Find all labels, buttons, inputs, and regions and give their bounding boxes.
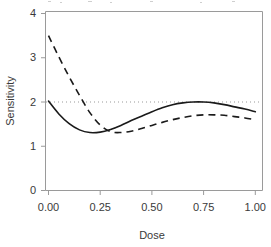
chart-canvas: 0 1 2 3 4 0.00 0.25 0.50 0.75 1.00 Dose … (0, 0, 271, 247)
y-axis-title: Sensitivity (4, 76, 16, 126)
x-tick-label-3: 0.75 (193, 201, 214, 213)
y-axis-tick-labels: 0 1 2 3 4 (30, 7, 36, 196)
y-tick-label-3: 3 (30, 51, 36, 63)
x-axis-ticks (49, 191, 256, 196)
y-tick-label-0: 0 (30, 184, 36, 196)
scan-artifacts (48, 1, 235, 3)
y-tick-label-1: 1 (30, 140, 36, 152)
x-tick-label-4: 1.00 (245, 201, 266, 213)
y-tick-label-4: 4 (30, 7, 36, 19)
y-axis-ticks (41, 14, 46, 191)
dashed-curve (49, 36, 256, 133)
x-axis-tick-labels: 0.00 0.25 0.50 0.75 1.00 (38, 201, 266, 213)
plot-frame (46, 12, 263, 191)
x-tick-label-0: 0.00 (38, 201, 59, 213)
chart-figure: 0 1 2 3 4 0.00 0.25 0.50 0.75 1.00 Dose … (0, 0, 271, 247)
x-tick-label-1: 0.25 (89, 201, 110, 213)
x-tick-label-2: 0.50 (141, 201, 162, 213)
x-axis-title: Dose (139, 229, 165, 241)
y-tick-label-2: 2 (30, 96, 36, 108)
solid-curve (49, 101, 256, 133)
